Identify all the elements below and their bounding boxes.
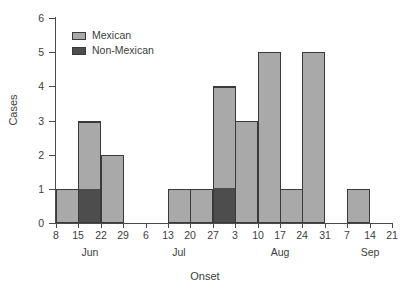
y-tick-label: 2 [24,150,44,161]
x-tick-label: 21 [381,230,403,241]
x-tick-mark [235,223,236,228]
x-tick-mark [123,223,124,228]
x-tick-label: 15 [67,230,89,241]
bar-segment-mexican [169,190,190,222]
y-tick-label: 4 [24,81,44,92]
x-tick-label: 13 [157,230,179,241]
x-axis-month-label: Aug [255,247,305,258]
bar [56,189,79,223]
x-tick-label: 7 [336,230,358,241]
y-tick-mark [49,121,55,122]
bar [235,121,258,224]
bar-segment-mexican [102,156,123,222]
y-tick-mark [49,86,55,87]
legend-label: Non-Mexican [92,45,154,56]
y-axis-title: Cases [7,75,19,145]
bar [280,189,303,223]
y-tick-mark [49,223,55,224]
bar-segment-mexican [191,190,212,222]
x-tick-mark [370,223,371,228]
x-tick-label: 8 [45,230,67,241]
x-tick-label: 27 [202,230,224,241]
x-tick-mark [280,223,281,228]
bar-segment-mexican [57,190,78,222]
x-tick-mark [325,223,326,228]
x-axis-line [55,223,393,224]
y-tick-label: 5 [24,47,44,58]
legend-item: Non-Mexican [72,44,154,57]
legend-swatch-icon [72,32,86,40]
x-axis-month-label: Jun [65,247,115,258]
bar-segment-mexican [259,53,280,222]
y-tick-label: 3 [24,116,44,127]
chart-legend: MexicanNon-Mexican [72,29,154,59]
x-tick-mark [168,223,169,228]
y-tick-mark [49,52,55,53]
x-tick-mark [347,223,348,228]
bar [168,189,191,223]
x-axis-title: Onset [0,270,410,282]
legend-label: Mexican [92,30,131,41]
x-axis-month-label: Jul [154,247,204,258]
y-tick-mark [49,189,55,190]
x-tick-label: 24 [291,230,313,241]
x-tick-label: 17 [269,230,291,241]
bar-segment-mexican [281,190,302,222]
x-tick-label: 14 [359,230,381,241]
legend-item: Mexican [72,29,154,42]
legend-swatch-icon [72,47,86,55]
y-tick-mark [49,18,55,19]
bar-segment-mexican [348,190,369,222]
bar-segment-mexican [303,53,324,222]
y-tick-label: 1 [24,184,44,195]
bar [101,155,124,223]
x-tick-mark [78,223,79,228]
x-tick-mark [392,223,393,228]
bar [78,121,101,224]
bar [213,86,236,223]
x-tick-mark [190,223,191,228]
x-tick-label: 20 [179,230,201,241]
epidemic-curve-chart: 0123456 8152229613202731017243171421 Jun… [0,0,410,296]
bar [258,52,281,223]
x-tick-label: 6 [135,230,157,241]
x-tick-label: 3 [224,230,246,241]
bar-segment-mexican [214,87,235,188]
x-tick-mark [258,223,259,228]
bar [347,189,370,223]
bar-segment-mexican [236,122,257,223]
bar-segment-non-mexican [79,189,100,222]
bar [302,52,325,223]
x-tick-mark [146,223,147,228]
x-tick-label: 31 [314,230,336,241]
bar-segment-non-mexican [214,188,235,222]
y-tick-label: 0 [24,218,44,229]
x-tick-mark [302,223,303,228]
x-tick-label: 10 [247,230,269,241]
x-tick-mark [213,223,214,228]
y-tick-label: 6 [24,13,44,24]
y-tick-mark [49,155,55,156]
x-tick-label: 29 [112,230,134,241]
x-axis-month-label: Sep [345,247,395,258]
bar-segment-mexican [79,122,100,189]
x-tick-mark [56,223,57,228]
bar [190,189,213,223]
x-tick-label: 22 [90,230,112,241]
x-tick-mark [101,223,102,228]
